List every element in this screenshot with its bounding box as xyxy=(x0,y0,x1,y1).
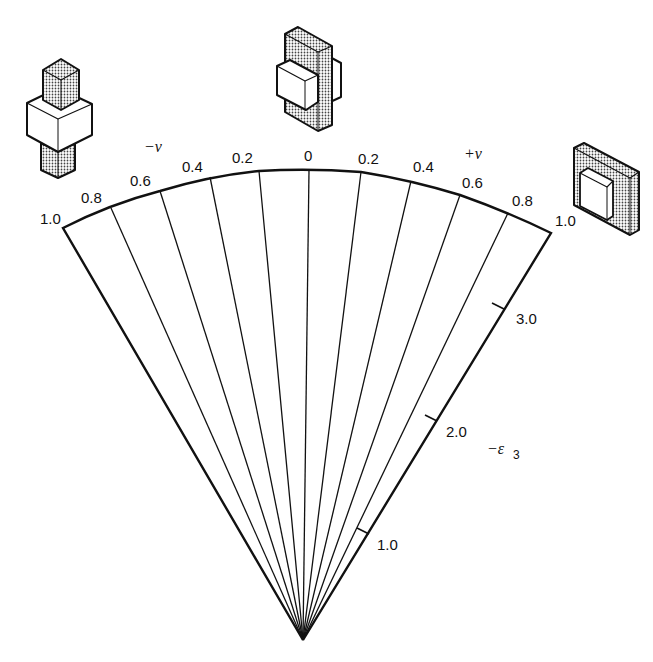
v-negative-label: −v xyxy=(144,138,163,155)
fan-rays xyxy=(111,170,508,640)
v-tick-neg-0.6: 0.6 xyxy=(130,172,151,189)
fan-outline xyxy=(63,170,551,640)
strain-tick-2.0: 2.0 xyxy=(446,423,467,440)
strain-axis-subscript: 3 xyxy=(513,448,520,462)
strain-tick-1.0: 1.0 xyxy=(377,536,398,553)
v-tick-pos-0.8: 0.8 xyxy=(512,192,533,209)
v-tick-neg-0.4: 0.4 xyxy=(182,158,203,175)
block-compressed-plate-icon xyxy=(574,143,639,235)
v-tick-zero: 0 xyxy=(304,147,312,164)
strain-axis-label: −ε xyxy=(487,440,505,457)
v-tick-neg-1.0: 1.0 xyxy=(40,210,61,227)
block-compressed-vertical-icon xyxy=(27,59,92,178)
strain-tick-3.0: 3.0 xyxy=(516,310,537,327)
v-tick-pos-0.2: 0.2 xyxy=(358,150,379,167)
strain-axis-labels: 1.0 2.0 3.0 −ε 3 xyxy=(377,310,537,553)
v-tick-pos-1.0: 1.0 xyxy=(555,212,576,229)
fan-diagram: 1.0 0.8 0.6 0.4 0.2 0 0.2 0.4 0.6 0.8 1.… xyxy=(0,0,653,662)
v-tick-neg-0.8: 0.8 xyxy=(81,189,102,206)
block-sheared-center-icon xyxy=(277,27,341,131)
v-tick-pos-0.6: 0.6 xyxy=(462,174,483,191)
v-positive-label: +v xyxy=(464,145,483,162)
v-tick-neg-0.2: 0.2 xyxy=(232,149,253,166)
strain-ticks xyxy=(357,303,504,534)
v-tick-pos-0.4: 0.4 xyxy=(413,158,434,175)
